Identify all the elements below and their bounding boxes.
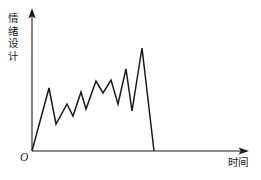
chart-canvas	[0, 0, 261, 180]
emotional-design-line-chart: 情绪设计 时间 O	[0, 0, 261, 180]
series-line-emotional-design	[32, 48, 154, 151]
origin-label: O	[20, 151, 28, 164]
x-axis-label: 时间	[228, 156, 248, 168]
y-axis-label: 情绪设计	[4, 12, 21, 62]
